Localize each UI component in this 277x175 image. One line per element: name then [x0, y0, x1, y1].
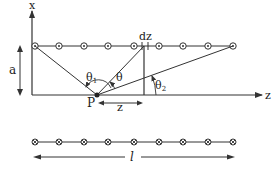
- z-distance-label: z: [117, 101, 123, 114]
- current-out-icon: [105, 43, 111, 49]
- current-in-icon: [105, 139, 111, 145]
- z-axis: z: [32, 89, 271, 102]
- current-in-icon: [56, 139, 62, 145]
- point-p: [95, 93, 100, 98]
- field-lines: [35, 46, 233, 95]
- current-in-icon: [205, 139, 211, 145]
- current-out-icon: [180, 43, 186, 49]
- length-dimension: l: [33, 150, 235, 164]
- theta1-label: θ1: [86, 71, 97, 85]
- current-in-icon: [32, 139, 38, 145]
- current-out-icon: [131, 43, 137, 49]
- current-out-icon: [81, 43, 87, 49]
- theta-label: θ: [116, 71, 123, 84]
- top-wire-currents: [32, 43, 236, 49]
- current-in-icon: [131, 139, 137, 145]
- length-label: l: [130, 150, 134, 164]
- current-in-icon: [156, 139, 162, 145]
- height-dimension: a: [9, 45, 23, 96]
- theta2-angle: θ2: [152, 76, 166, 95]
- theta2-label: θ2: [155, 79, 166, 93]
- theta1-angle: θ1: [86, 71, 111, 88]
- current-in-icon: [81, 139, 87, 145]
- current-in-icon: [180, 139, 186, 145]
- diagram-canvas: x z a dz P: [0, 0, 277, 175]
- height-label: a: [9, 63, 16, 77]
- z-distance: z: [98, 101, 143, 115]
- dz-element: dz: [139, 30, 152, 50]
- current-out-icon: [205, 43, 211, 49]
- x-axis-label: x: [29, 0, 36, 12]
- diagram-svg: x z a dz P: [0, 0, 277, 175]
- current-in-icon: [230, 139, 236, 145]
- dz-label: dz: [139, 30, 152, 43]
- current-out-icon: [156, 43, 162, 49]
- current-out-icon: [56, 43, 62, 49]
- z-axis-label: z: [265, 89, 271, 102]
- point-p-label: P: [87, 96, 95, 110]
